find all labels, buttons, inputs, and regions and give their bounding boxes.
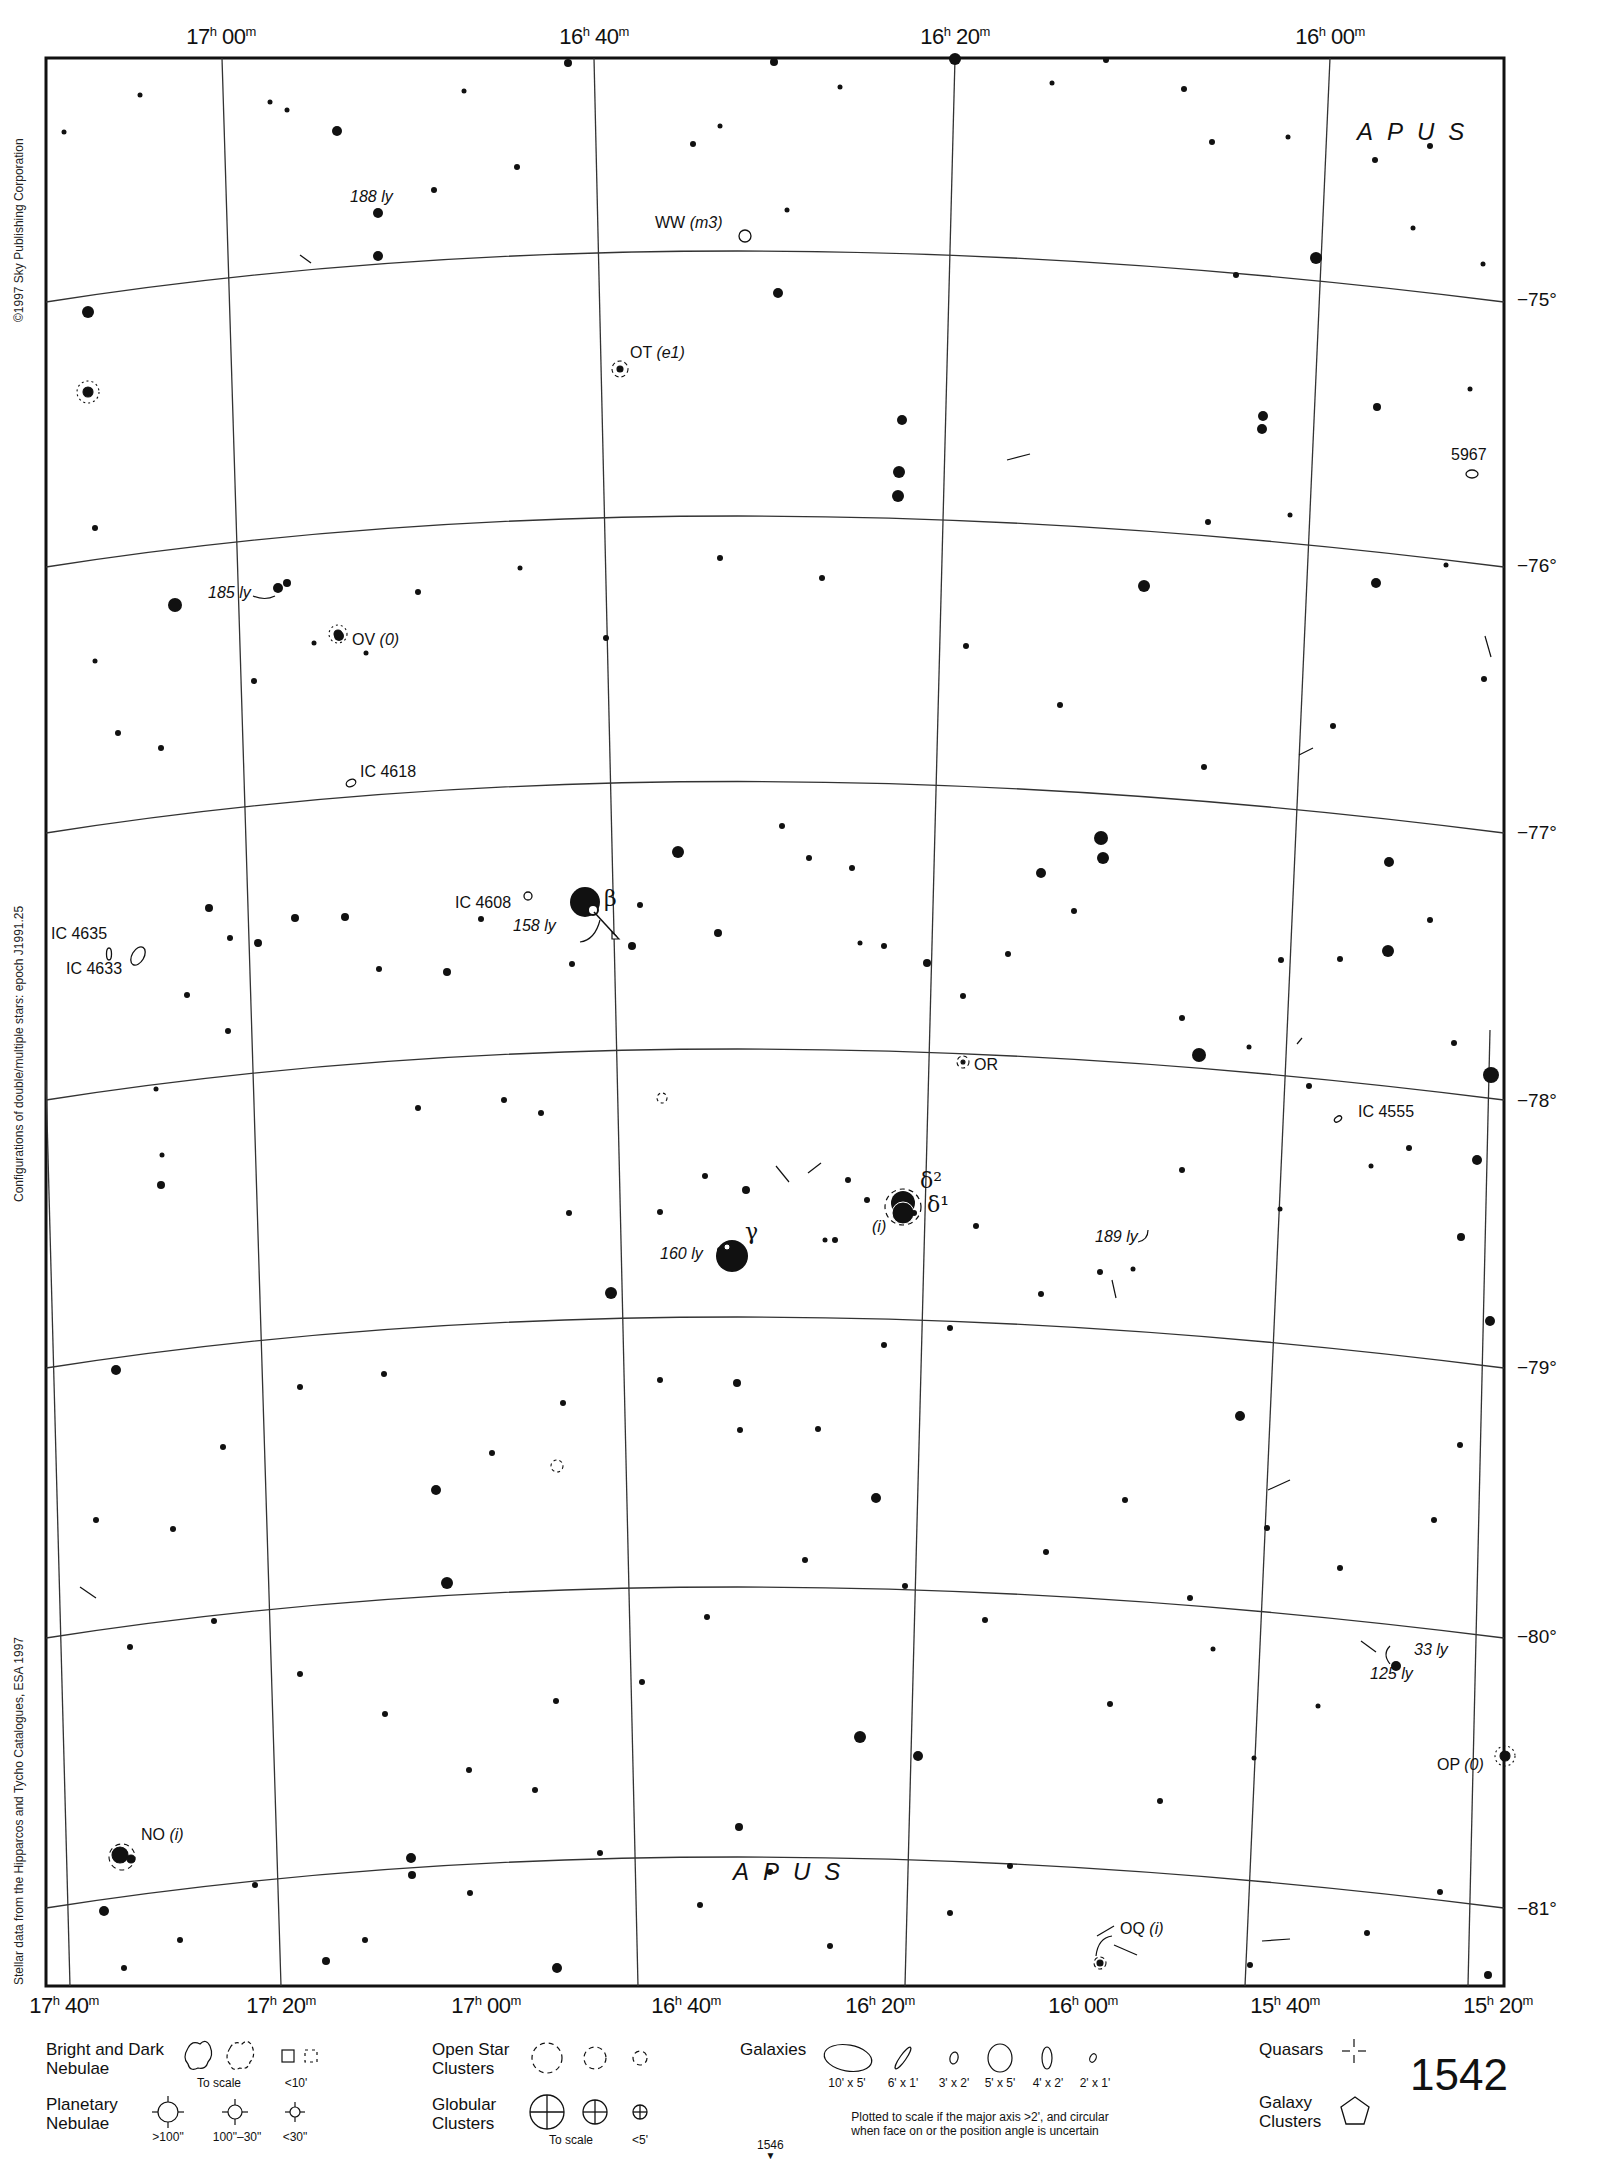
ic4555	[1333, 1115, 1342, 1124]
nebula-symbols	[180, 2038, 340, 2078]
legend-galaxy-size-4: 5' x 5'	[985, 2076, 1016, 2090]
ra-minutes: 00	[1331, 24, 1354, 49]
galaxy-cluster-symbol	[1338, 2094, 1372, 2128]
label-no: NO (i)	[141, 1826, 184, 1844]
constellation-label-bottom: APUS	[733, 1858, 854, 1886]
label-ic4555: IC 4555	[1358, 1103, 1414, 1121]
object-note: (0)	[380, 631, 400, 648]
ra-minutes: 20	[1499, 1993, 1522, 2018]
ra-label-top-16h20m: 16h 20m	[920, 24, 990, 50]
legend-planetary-size-2: 100"–30"	[213, 2130, 262, 2144]
dec-label-81: −81°	[1517, 1898, 1557, 1920]
label-oq: OQ (i)	[1120, 1920, 1164, 1938]
legend-globular-small: <5'	[632, 2133, 648, 2147]
legend-nebulae-title: Bright and Dark Nebulae	[46, 2040, 164, 2078]
object-name: OT	[630, 344, 652, 361]
quasar-symbol	[1340, 2038, 1370, 2068]
ra-label-bottom-16h00m: 16h 00m	[1048, 1993, 1118, 2019]
ra-label-bottom-17h20m: 17h 20m	[246, 1993, 316, 2019]
legend-galaxy-size-1: 10' x 5'	[828, 2076, 865, 2090]
ra-hours: 16	[1295, 24, 1318, 49]
copyright-text: ©1997 Sky Publishing Corporation	[12, 138, 26, 322]
legend-planetary-title: Planetary Nebulae	[46, 2095, 118, 2133]
dec-label-79: −79°	[1517, 1357, 1557, 1379]
object-name: WW	[655, 214, 685, 231]
distance-158ly: 158 ly	[513, 917, 556, 935]
ngc5967	[1466, 470, 1478, 478]
dec-label-75: −75°	[1517, 289, 1557, 311]
object-note: (e1)	[656, 344, 684, 361]
legend-nebulae-small: <10'	[285, 2076, 308, 2090]
label-ngc5967: 5967	[1451, 446, 1487, 464]
legend-planetary-size-3: <30"	[283, 2130, 308, 2144]
ra-label-top-16h00m: 16h 00m	[1295, 24, 1365, 50]
ra-hours: 17	[29, 1993, 52, 2018]
object-note: (i)	[169, 1826, 183, 1843]
label-ic4618: IC 4618	[360, 763, 416, 781]
ra-hours: 17	[186, 24, 209, 49]
ra-hours: 16	[651, 1993, 674, 2018]
ra-hours: 17	[451, 1993, 474, 2018]
ra-label-top-17h00m: 17h 00m	[186, 24, 256, 50]
ra-label-bottom-15h40m: 15h 40m	[1250, 1993, 1320, 2019]
variable-stars	[77, 361, 1515, 1969]
ra-label-bottom-17h00m: 17h 00m	[451, 1993, 521, 2019]
star-188ly	[373, 208, 383, 218]
ra-minutes: 00	[1084, 1993, 1107, 2018]
planetary-nebula-symbols	[150, 2094, 350, 2130]
ra-minutes: 40	[1286, 1993, 1309, 2018]
constellation-label-top: APUS	[1357, 118, 1478, 146]
label-delta2: δ²	[920, 1168, 942, 1193]
legend-galaxy-size-6: 2' x 1'	[1080, 2076, 1111, 2090]
ra-label-bottom-15h20m: 15h 20m	[1463, 1993, 1533, 2019]
dec-label-77: −77°	[1517, 822, 1557, 844]
epoch-note: Configurations of double/multiple stars:…	[12, 906, 26, 1202]
label-ot: OT (e1)	[630, 344, 685, 362]
ra-minutes: 20	[282, 1993, 305, 2018]
globular-cluster-symbols	[525, 2090, 665, 2134]
legend-galaxies-title: Galaxies	[740, 2040, 806, 2059]
object-name: OV	[352, 631, 375, 648]
ic4618	[345, 778, 357, 789]
ra-hours: 17	[246, 1993, 269, 2018]
label-delta1: δ¹	[927, 1192, 949, 1217]
dec-label-78: −78°	[1517, 1090, 1557, 1112]
label-op: OP (0)	[1437, 1756, 1484, 1774]
object-name: OP	[1437, 1756, 1460, 1773]
legend-galaxy-size-2: 6' x 1'	[888, 2076, 919, 2090]
legend-galaxy-size-5: 4' x 2'	[1033, 2076, 1064, 2090]
legend-planetary-size-1: >100"	[152, 2130, 183, 2144]
legend-galaxy-size-3: 3' x 2'	[939, 2076, 970, 2090]
galaxy-symbols	[820, 2038, 1200, 2078]
ra-minutes: 20	[956, 24, 979, 49]
adjacent-chart-link[interactable]: 1546 ▼	[757, 2138, 784, 2159]
ic4608	[524, 892, 532, 900]
distance-188ly: 188 ly	[350, 188, 393, 206]
label-ov: OV (0)	[352, 631, 399, 649]
ra-label-bottom-16h40m: 16h 40m	[651, 1993, 721, 2019]
label-delta-variable: (i)	[872, 1218, 886, 1236]
galaxies	[107, 230, 1479, 1123]
open-cluster-symbols	[525, 2038, 665, 2078]
distance-189ly: 189 ly	[1095, 1228, 1138, 1246]
star-field	[62, 53, 1500, 1979]
label-ww: WW (m3)	[655, 214, 723, 232]
star-chart	[0, 0, 1603, 2159]
label-ic4633: IC 4633	[66, 960, 122, 978]
ic4633	[128, 944, 148, 967]
dec-label-76: −76°	[1517, 555, 1557, 577]
bright-stars	[273, 208, 921, 1272]
label-ic4608: IC 4608	[455, 894, 511, 912]
label-or: OR	[974, 1056, 998, 1074]
dec-label-80: −80°	[1517, 1626, 1557, 1648]
source-note: Stellar data from the Hipparcos and Tych…	[12, 1637, 26, 1985]
ra-label-bottom-16h20m: 16h 20m	[845, 1993, 915, 2019]
chart-frame	[46, 58, 1504, 1986]
legend-quasars-title: Quasars	[1259, 2040, 1323, 2059]
chevron-down-icon: ▼	[757, 2152, 784, 2159]
ra-minutes: 00	[487, 1993, 510, 2018]
ic4635	[107, 948, 112, 960]
object-name: NO	[141, 1826, 165, 1843]
label-beta: β	[604, 886, 617, 911]
ra-minutes: 40	[595, 24, 618, 49]
